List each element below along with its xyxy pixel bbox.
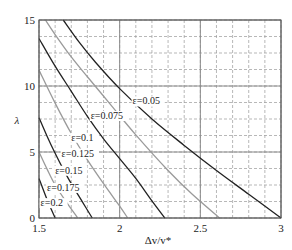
curve-label: ε=0.075: [91, 110, 123, 121]
curve-label: ε=0.175: [47, 182, 79, 193]
x-tick-label: 3: [278, 222, 284, 234]
y-tick-label: 15: [24, 14, 36, 26]
x-axis-label: Δv/v*: [145, 234, 172, 246]
curve-label: ε=0.15: [55, 165, 82, 176]
curve-label: ε=0.2: [41, 197, 63, 208]
y-tick-label: 5: [30, 146, 36, 158]
curve-label: ε=0.1: [71, 132, 93, 143]
x-tick-label: 2: [117, 222, 123, 234]
curve-label: ε=0.125: [62, 148, 94, 159]
chart: 1.522.53051015 ε=0.05ε=0.075ε=0.1ε=0.125…: [0, 0, 292, 250]
curve-0.125: [39, 70, 128, 218]
y-tick-label: 10: [24, 80, 36, 92]
y-tick-label: 0: [30, 212, 36, 224]
y-axis-label: λ: [14, 114, 20, 126]
x-tick-label: 2.5: [193, 222, 207, 234]
curve-label: ε=0.05: [133, 95, 160, 106]
